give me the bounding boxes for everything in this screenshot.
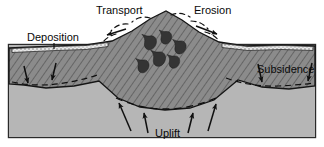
cross-section-figure: Transport Erosion Deposition Subsidence … (0, 0, 324, 147)
label-deposition: Deposition (27, 31, 79, 43)
cross-section-canvas: Transport Erosion Deposition Subsidence … (0, 0, 324, 147)
label-erosion: Erosion (194, 4, 231, 16)
label-uplift: Uplift (155, 127, 180, 139)
label-transport: Transport (96, 4, 143, 16)
label-subsidence: Subsidence (257, 63, 315, 75)
